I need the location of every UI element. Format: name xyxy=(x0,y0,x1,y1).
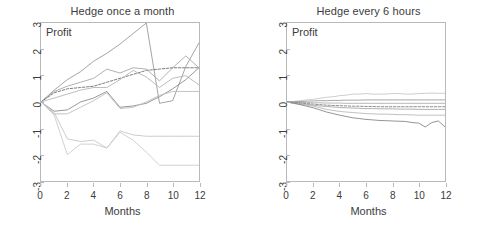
x-axis-title: Months xyxy=(0,205,245,217)
x-tick-mark xyxy=(339,183,340,187)
x-tick-mark xyxy=(147,183,148,187)
x-axis: 024681012 xyxy=(40,183,200,203)
x-axis: 024681012 xyxy=(286,183,446,203)
x-tick-mark xyxy=(286,183,287,187)
figure-two-panel-profit-paths: Hedge once a month Profit -3-2-10123 024… xyxy=(0,0,491,235)
y-tick-label: -2 xyxy=(279,155,290,164)
series-line xyxy=(287,100,445,102)
y-tick-mark xyxy=(40,22,44,23)
profit-inner-label: Profit xyxy=(292,26,318,38)
series-line xyxy=(287,102,445,103)
x-tick-mark xyxy=(173,183,174,187)
y-tick-mark xyxy=(286,75,290,76)
x-tick-label: 8 xyxy=(390,190,396,201)
x-tick-mark xyxy=(93,183,94,187)
x-tick-mark xyxy=(393,183,394,187)
y-axis: -3-2-10123 xyxy=(25,22,40,182)
x-axis-title: Months xyxy=(246,205,491,217)
x-tick-label: 10 xyxy=(168,190,179,201)
x-tick-mark xyxy=(366,183,367,187)
x-tick-label: 0 xyxy=(37,190,43,201)
plot-area xyxy=(40,22,200,182)
panel-hedge-once-a-month: Hedge once a month Profit -3-2-10123 024… xyxy=(0,0,245,235)
y-tick-mark xyxy=(40,129,44,130)
y-tick-mark xyxy=(286,155,290,156)
panel-title: Hedge once a month xyxy=(0,5,245,17)
x-tick-label: 10 xyxy=(414,190,425,201)
x-tick-label: 6 xyxy=(117,190,123,201)
y-axis: -3-2-10123 xyxy=(271,22,286,182)
x-tick-mark xyxy=(200,183,201,187)
x-tick-label: 12 xyxy=(194,190,205,201)
y-tick-mark xyxy=(40,102,44,103)
y-tick-label: -1 xyxy=(279,129,290,138)
profit-inner-label: Profit xyxy=(46,26,72,38)
y-tick-mark xyxy=(286,102,290,103)
x-tick-mark xyxy=(67,183,68,187)
y-tick-mark xyxy=(286,22,290,23)
x-tick-label: 2 xyxy=(64,190,70,201)
plot-area xyxy=(286,22,446,182)
y-tick-mark xyxy=(286,129,290,130)
x-tick-mark xyxy=(40,183,41,187)
series-line xyxy=(41,70,199,102)
x-tick-label: 2 xyxy=(310,190,316,201)
x-tick-label: 0 xyxy=(283,190,289,201)
y-tick-mark xyxy=(286,49,290,50)
x-tick-label: 4 xyxy=(91,190,97,201)
x-tick-mark xyxy=(120,183,121,187)
panel-hedge-every-6-hours: Hedge every 6 hours Profit -3-2-10123 02… xyxy=(246,0,491,235)
plot-lines-left xyxy=(41,23,199,181)
x-tick-mark xyxy=(313,183,314,187)
y-tick-mark xyxy=(40,155,44,156)
x-tick-mark xyxy=(419,183,420,187)
plot-lines-right xyxy=(287,23,445,181)
x-tick-label: 8 xyxy=(144,190,150,201)
x-tick-label: 4 xyxy=(337,190,343,201)
x-tick-mark xyxy=(446,183,447,187)
x-tick-label: 6 xyxy=(363,190,369,201)
y-tick-label: -2 xyxy=(33,155,44,164)
y-tick-label: -1 xyxy=(33,129,44,138)
y-tick-mark xyxy=(40,75,44,76)
panel-title: Hedge every 6 hours xyxy=(246,5,491,17)
x-tick-label: 12 xyxy=(440,190,451,201)
y-tick-mark xyxy=(40,49,44,50)
